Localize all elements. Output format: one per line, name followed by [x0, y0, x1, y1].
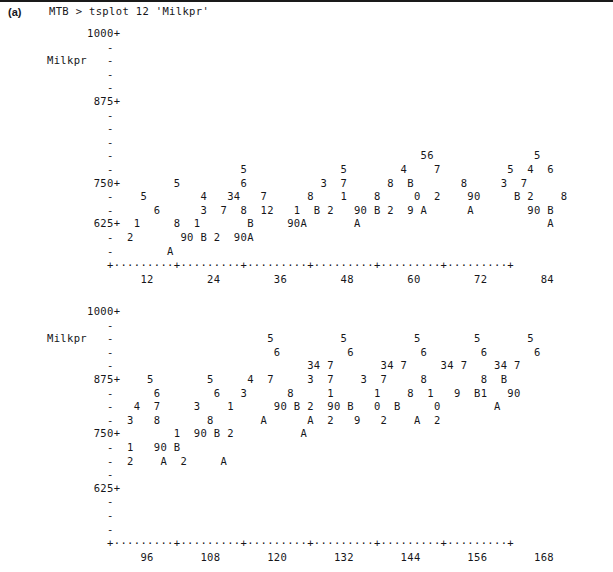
plot-row: - 6 3 7 8 12 1 B 2 90 B 2 9 A A 90 B — [47, 205, 554, 215]
plot-row: 750+ 5 6 3 7 8 B 8 3 7 — [47, 178, 527, 188]
plot-row: - — [47, 510, 114, 520]
plot-row: - — [47, 469, 114, 479]
plot-row: - — [47, 42, 114, 52]
plot-row: - 4 7 3 1 90 B 2 90 B 0 B 0 A — [47, 401, 501, 411]
x-axis-tick-labels: 96 108 120 132 144 156 168 — [47, 552, 554, 562]
top-rule — [0, 0, 613, 2]
x-axis-tick-labels: 12 24 36 48 60 72 84 — [47, 274, 554, 284]
plot-row: - — [47, 123, 114, 133]
x-axis-line: +·········+·········+·········+·········… — [47, 260, 514, 270]
plot-row: 1000+ — [47, 306, 120, 316]
plot-row: - — [47, 524, 114, 534]
plot-row: - — [47, 110, 114, 120]
plot-row: 625+ 1 8 1 B 90A A A — [47, 218, 554, 228]
plot-row: - 3 8 8 A A 2 9 2 A 2 — [47, 415, 441, 425]
plot-row: - 2 90 B 2 90A — [47, 232, 254, 242]
plot-row: - — [47, 82, 114, 92]
x-axis-line: +·········+·········+·········+·········… — [47, 538, 514, 548]
plot-row: - 2 A 2 A — [47, 456, 227, 466]
plot-row: - 34 7 34 7 34 7 34 7 — [47, 360, 521, 370]
plot-row: - 5 5 4 7 5 4 6 — [47, 164, 554, 174]
plot-row: 750+ 1 90 B 2 A — [47, 428, 307, 438]
plot-row: - — [47, 496, 114, 506]
plot-row: - 1 90 B — [47, 442, 180, 452]
plot-row: - — [47, 69, 114, 79]
plot-row: 1000+ — [47, 28, 120, 38]
figure-panel-label: (a) — [8, 6, 21, 18]
plot-row: 875+ 5 5 4 7 3 7 3 7 8 8 B — [47, 374, 507, 384]
plot-row: - 56 5 — [47, 150, 541, 160]
plot-row: 875+ — [47, 96, 120, 106]
plot-row: Milkpr - 5 5 5 5 5 — [47, 333, 534, 343]
plot-row: Milkpr - — [47, 55, 114, 65]
plot-row: - — [47, 320, 114, 330]
plot-row: - 6 6 6 6 6 — [47, 347, 541, 357]
plot-row: - — [47, 137, 114, 147]
command-line: MTB > tsplot 12 'Milkpr' — [49, 5, 209, 17]
plot-row: 625+ — [47, 483, 120, 493]
plot-row: - 5 4 34 7 8 1 8 0 2 90 B 2 8 — [47, 191, 567, 201]
plot-row: - 6 6 3 8 1 1 8 1 9 B1 90 — [47, 388, 521, 398]
plot-row: - A — [47, 246, 174, 256]
